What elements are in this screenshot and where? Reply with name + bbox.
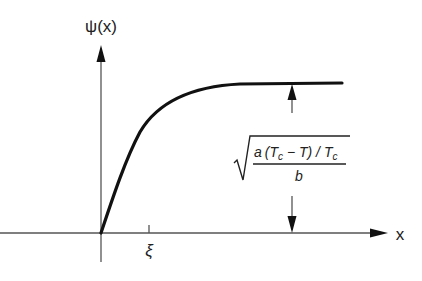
y-axis-label: ψ(x) [85, 17, 117, 36]
amplitude-up-arrowhead [288, 84, 297, 100]
amplitude-formula: a(Tc − T) / Tc b [234, 136, 350, 184]
x-axis-label: x [396, 225, 405, 244]
formula-denominator: b [295, 168, 303, 184]
y-axis-arrowhead [97, 45, 106, 62]
amplitude-down-arrowhead [288, 216, 297, 233]
xi-tick-label: ξ [145, 241, 154, 260]
formula-numerator: a(Tc − T) / Tc [254, 144, 337, 162]
order-parameter-diagram: ψ(x) x ξ a(Tc − T) / Tc b [0, 0, 422, 281]
x-axis-arrowhead [370, 229, 388, 238]
